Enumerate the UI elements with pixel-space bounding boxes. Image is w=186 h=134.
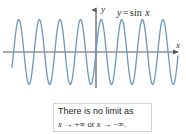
sine-plot [0, 0, 186, 100]
caption-variable-2: x [97, 119, 101, 129]
caption-arrow-2: → [103, 119, 112, 129]
caption-limit-2: −∞. [113, 119, 126, 129]
sine-limit-figure: y x y=sin x There is no limit as x → +∞ … [0, 0, 186, 134]
caption-limit-1: +∞ [75, 119, 86, 129]
caption-variable-1: x [58, 119, 62, 129]
caption-arrow-1: → [64, 119, 73, 129]
equation-function-name: sin [129, 7, 143, 18]
caption-line-limit: x → +∞ or x → −∞. [58, 118, 151, 130]
caption-box: There is no limit as x → +∞ or x → −∞. [53, 103, 152, 132]
y-axis-label: y [101, 5, 105, 14]
equation-equals: = [121, 7, 129, 18]
caption-conjunction: or [88, 119, 95, 129]
function-equation-label: y=sin x [117, 8, 150, 18]
x-axis-label: x [176, 41, 180, 50]
caption-line-primary: There is no limit as [58, 106, 151, 117]
equation-rhs-variable: x [145, 7, 149, 18]
